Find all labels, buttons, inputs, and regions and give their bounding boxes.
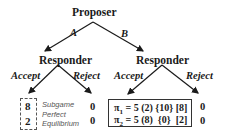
payoff-b-reject-p2: 0 [200,116,205,127]
action-a-label: A [70,28,77,39]
payoff-b-accept-box: π1 = 5 (2) {10} [8] π2 = 5 (8) {0} [2] [108,99,192,127]
pi2-values: = 5 (8) {0} [2] [125,114,187,125]
edge-B [93,22,143,51]
spe-annotation: Subgame Perfect Equilibrium [42,100,79,129]
edge-A [45,22,93,51]
pi1-values: = 5 (2) {10} [8] [125,102,187,113]
payoff-b-accept-p2: π2 = 5 (8) {0} [2] [114,115,187,128]
payoff-b-reject-p1: 0 [200,102,205,113]
payoff-a-accept-p1: 8 [25,101,31,112]
spe-annotation-line3: Equilibrium [42,119,79,129]
proposer-node: Proposer [72,7,117,19]
right-reject-label: Reject [186,71,213,82]
left-accept-label: Accept [11,71,40,82]
responder-node-right: Responder [136,55,189,67]
pi2-subscript: 2 [119,120,123,128]
left-reject-label: Reject [73,71,100,82]
right-accept-label: Accept [114,71,143,82]
payoff-a-reject-p1: 0 [90,102,95,113]
spe-annotation-line1: Subgame [42,100,79,110]
action-b-label: B [121,29,128,40]
spe-annotation-line2: Perfect [42,110,79,120]
payoff-a-reject-p2: 0 [90,116,95,127]
responder-node-left: Responder [39,55,92,67]
payoff-a-accept-p2: 2 [25,116,31,127]
